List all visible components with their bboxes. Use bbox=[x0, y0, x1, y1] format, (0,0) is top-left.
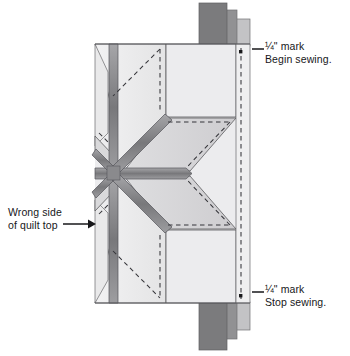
label-wrong-line2: of quilt top bbox=[8, 219, 62, 232]
patch-right-edge bbox=[236, 44, 250, 303]
label-begin-sewing: ¼" mark Begin sewing. bbox=[265, 40, 332, 66]
strip-group-top bbox=[199, 3, 250, 46]
label-begin-line1: ¼" mark bbox=[265, 40, 332, 53]
label-stop-sewing: ¼" mark Stop sewing. bbox=[265, 283, 326, 309]
seam-horizontal-right bbox=[113, 168, 192, 179]
strip-bottom-dark bbox=[199, 302, 227, 350]
label-stop-line1: ¼" mark bbox=[265, 283, 326, 296]
label-wrong-line1: Wrong side bbox=[8, 206, 62, 219]
strip-top-dark bbox=[199, 3, 227, 46]
label-wrong-side: Wrong side of quilt top bbox=[8, 206, 62, 232]
strip-group-bottom bbox=[199, 302, 250, 350]
patch-lower-right bbox=[166, 230, 236, 303]
wrong-side-arrow bbox=[63, 220, 96, 229]
mark-dot-stop bbox=[239, 294, 242, 297]
label-begin-line2: Begin sewing. bbox=[265, 53, 332, 66]
seam-vertical-down bbox=[109, 176, 118, 303]
label-stop-line2: Stop sewing. bbox=[265, 296, 326, 309]
seam-vertical-up bbox=[109, 44, 118, 171]
mark-dot-begin bbox=[239, 50, 242, 53]
seam-center-hub bbox=[107, 166, 120, 180]
patch-upper-right bbox=[166, 44, 236, 117]
